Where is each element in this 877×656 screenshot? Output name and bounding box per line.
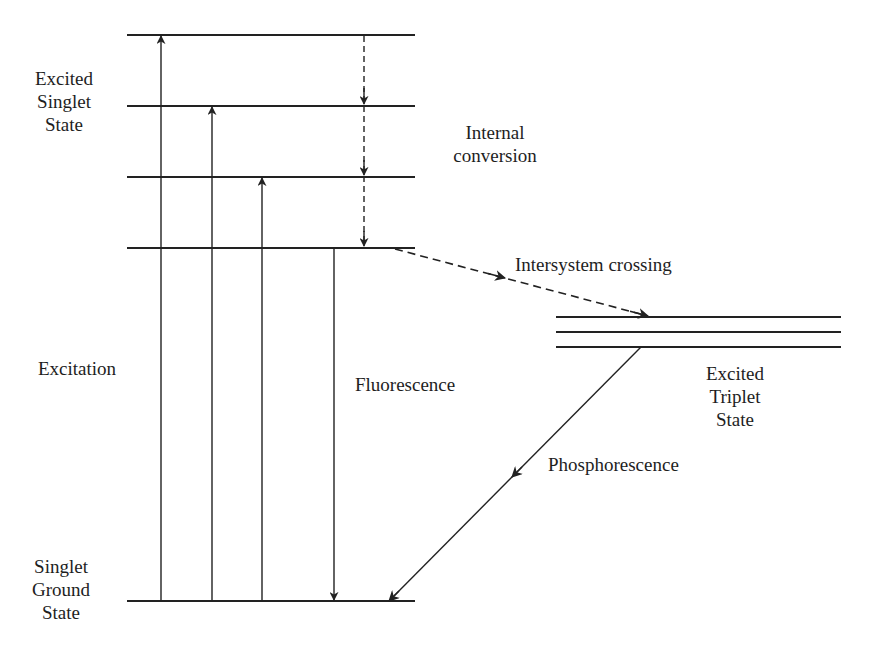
label-line: Singlet (24, 90, 104, 113)
label-internal-conversion: Internal conversion (440, 121, 550, 167)
triplet-levels (556, 317, 841, 347)
label-line: Excited (695, 362, 775, 385)
label-line: Singlet (26, 555, 96, 578)
excitation-arrows (161, 36, 262, 601)
label-excitation: Excitation (38, 357, 116, 380)
singlet-excited-levels (127, 35, 415, 248)
label-line: conversion (440, 144, 550, 167)
label-line: Ground (26, 578, 96, 601)
label-excited-triplet-state: Excited Triplet State (695, 362, 775, 431)
label-intersystem-crossing: Intersystem crossing (515, 253, 672, 276)
label-line: State (24, 113, 104, 136)
label-fluorescence: Fluorescence (355, 373, 455, 396)
label-line: Triplet (695, 385, 775, 408)
jablonski-diagram (0, 0, 877, 656)
label-singlet-ground-state: Singlet Ground State (26, 555, 96, 624)
label-line: Excited (24, 67, 104, 90)
label-line: Internal (440, 121, 550, 144)
label-phosphorescence: Phosphorescence (548, 453, 679, 476)
label-line: State (26, 601, 96, 624)
label-line: State (695, 408, 775, 431)
label-excited-singlet-state: Excited Singlet State (24, 67, 104, 136)
